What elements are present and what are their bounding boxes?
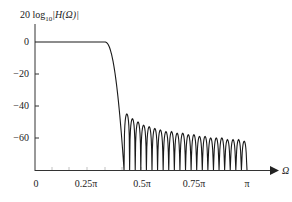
x-tick-label: 0.75π (183, 178, 206, 189)
magnitude-curve (35, 42, 247, 170)
x-tick-label: 0.5π (133, 178, 151, 189)
magnitude-response-chart: 20 log10|H(Ω)| Ω 0 −20 −40 −60 0 0.25π 0… (0, 0, 292, 202)
y-tick-label: −20 (13, 68, 29, 79)
x-axis-label: Ω (282, 165, 289, 176)
x-tick-label: 0 (34, 178, 39, 189)
x-tick-label: π (244, 178, 249, 189)
y-tick-label: 0 (24, 36, 29, 47)
x-axis-arrow-icon (270, 166, 279, 175)
y-tick-label: −60 (13, 132, 29, 143)
x-tick-label: 0.25π (75, 178, 98, 189)
x-ticks (52, 167, 141, 170)
y-ticks (35, 74, 39, 138)
y-tick-label: −40 (13, 100, 29, 111)
y-axis-label: 20 log10|H(Ω)| (20, 9, 79, 23)
